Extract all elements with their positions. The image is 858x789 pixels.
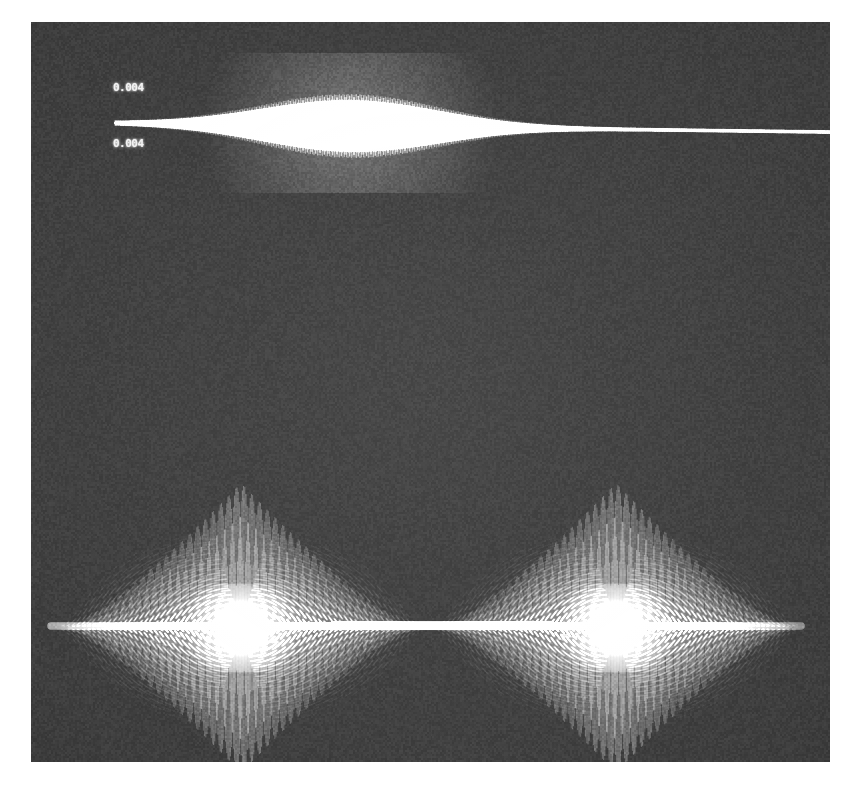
screenshot-root: 0.004 0.004	[0, 0, 858, 789]
scope-label-top: 0.004	[113, 82, 144, 94]
waveform-traces-canvas	[31, 22, 830, 762]
oscilloscope-screen: 0.004 0.004	[31, 22, 830, 762]
scope-label-bottom: 0.004	[113, 138, 144, 150]
